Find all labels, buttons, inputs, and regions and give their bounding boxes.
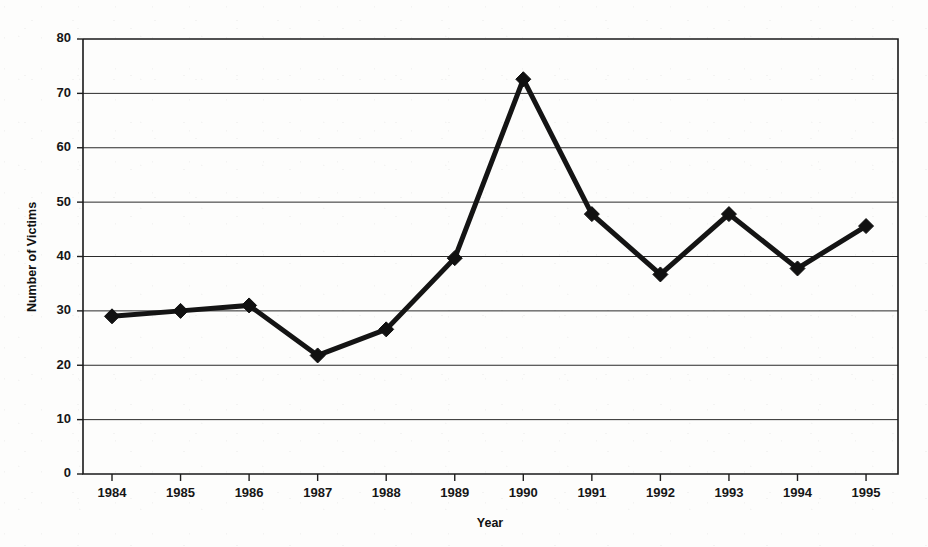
data-series [105, 72, 874, 363]
x-tick-label: 1987 [303, 485, 332, 500]
x-tick-label: 1985 [166, 485, 195, 500]
series-line [112, 79, 866, 355]
x-tick-label: 1995 [852, 485, 881, 500]
y-axis-title: Number of Victims [25, 202, 39, 312]
x-tick-label: 1989 [440, 485, 469, 500]
x-tick-label: 1990 [509, 485, 538, 500]
y-tick-label: 60 [57, 139, 71, 154]
x-tick-label: 1992 [646, 485, 675, 500]
x-tick-label: 1984 [98, 485, 128, 500]
y-tick-label: 70 [57, 85, 71, 100]
y-tick-label: 80 [57, 30, 71, 45]
x-tick-label: 1991 [577, 485, 606, 500]
x-tick-label: 1986 [235, 485, 264, 500]
y-axis-tickmarks [77, 39, 83, 474]
y-tick-label: 20 [57, 357, 71, 372]
y-tick-label: 0 [64, 465, 71, 480]
x-axis-tickmarks [112, 474, 866, 481]
gridlines [83, 93, 898, 419]
line-chart: 01020304050607080 1984198519861987198819… [0, 0, 928, 547]
y-tick-label: 50 [57, 194, 71, 209]
y-tick-label: 40 [57, 248, 71, 263]
x-tick-label: 1988 [372, 485, 401, 500]
x-axis-tick-labels: 1984198519861987198819891990199119921993… [98, 485, 881, 500]
y-tick-label: 30 [57, 302, 71, 317]
y-axis-tick-labels: 01020304050607080 [57, 30, 71, 480]
x-axis-title: Year [477, 516, 504, 530]
x-tick-label: 1994 [783, 485, 813, 500]
chart-container: 01020304050607080 1984198519861987198819… [0, 0, 928, 547]
series-markers [105, 72, 874, 363]
data-point-marker [173, 303, 188, 318]
x-tick-label: 1993 [714, 485, 743, 500]
y-tick-label: 10 [57, 411, 71, 426]
